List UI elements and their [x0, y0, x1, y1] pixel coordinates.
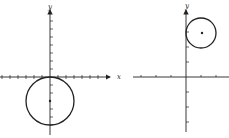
- center-point: [201, 32, 203, 34]
- diagram-canvas: y x y: [0, 0, 229, 138]
- right-graph: y: [133, 2, 229, 132]
- y-axis-label: y: [47, 3, 53, 11]
- left-graph: y x: [0, 3, 121, 135]
- center-point: [49, 100, 51, 102]
- y-axis-label: y: [184, 2, 190, 10]
- x-axis-label: x: [117, 73, 121, 81]
